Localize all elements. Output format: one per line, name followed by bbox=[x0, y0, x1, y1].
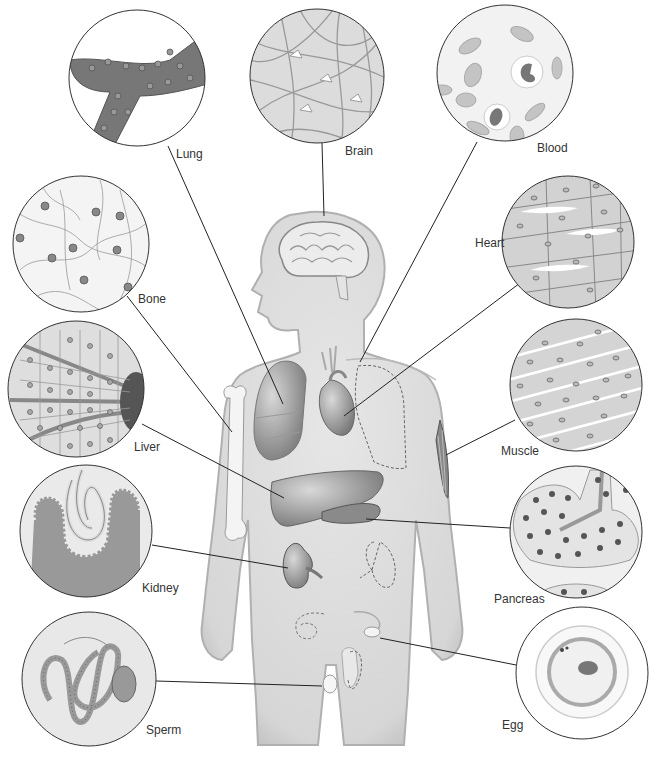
blood-tissue-circle bbox=[432, 5, 573, 146]
liver-tissue-circle bbox=[8, 321, 152, 460]
label-blood: Blood bbox=[537, 141, 568, 155]
label-liver: Liver bbox=[134, 440, 160, 454]
egg-tissue-circle bbox=[516, 607, 648, 739]
label-brain: Brain bbox=[345, 144, 373, 158]
label-sperm: Sperm bbox=[146, 723, 181, 737]
label-pancreas: Pancreas bbox=[494, 592, 545, 606]
brain-tissue-circle bbox=[250, 0, 390, 150]
sperm-tissue-circle bbox=[22, 612, 156, 746]
label-bone: Bone bbox=[138, 292, 166, 306]
label-egg: Egg bbox=[502, 718, 523, 732]
anatomy-diagram bbox=[0, 0, 656, 768]
bone-tissue-circle bbox=[13, 176, 150, 312]
brain-leader bbox=[322, 143, 324, 216]
heart-tissue-circle bbox=[500, 176, 640, 310]
bone-leader bbox=[127, 296, 232, 432]
label-kidney: Kidney bbox=[142, 581, 179, 595]
lung-tissue-circle bbox=[69, 10, 220, 150]
label-lung: Lung bbox=[176, 147, 203, 161]
kidney-tissue-circle bbox=[20, 465, 152, 600]
label-muscle: Muscle bbox=[501, 444, 539, 458]
label-heart: Heart bbox=[475, 236, 504, 250]
